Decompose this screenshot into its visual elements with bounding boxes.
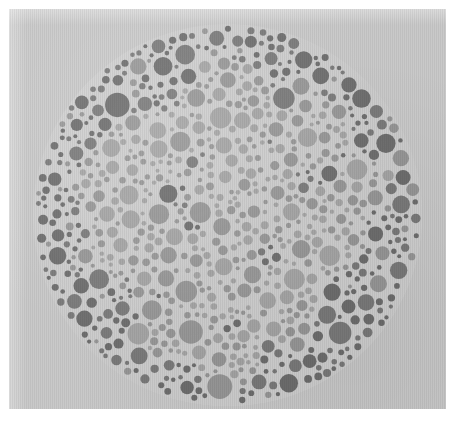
figure-dot [272,234,277,239]
figure-dot [214,71,218,75]
background-dot [223,45,227,49]
figure-dot [313,92,318,97]
background-dot [91,264,95,268]
background-dot [298,183,309,194]
figure-dot [229,333,236,340]
background-dot [341,70,345,74]
background-dot [268,44,275,51]
figure-dot [107,254,114,261]
figure-dot [153,348,163,358]
figure-dot [170,132,190,152]
figure-dot [207,293,216,302]
figure-dot [143,114,148,119]
background-dot [67,259,71,263]
background-dot [157,82,163,88]
background-dot [254,52,260,58]
figure-dot [240,378,247,385]
background-dot [124,277,129,282]
figure-dot [200,231,206,237]
background-dot [388,294,395,301]
figure-dot [196,280,202,286]
background-dot [362,149,366,153]
background-dot [84,121,88,125]
figure-dot [228,200,233,205]
figure-dot [330,209,334,213]
figure-dot [192,121,205,134]
figure-dot [287,239,292,244]
background-dot [159,185,177,203]
background-dot [76,311,92,327]
figure-dot [269,147,275,153]
background-dot [89,269,109,289]
figure-dot [269,122,284,137]
background-dot [343,94,349,100]
figure-dot [156,169,160,173]
figure-dot [111,197,119,205]
scan-margin-left [0,0,9,426]
figure-dot [360,244,365,249]
figure-dot [335,143,341,149]
figure-dot [194,185,204,195]
figure-dot [139,180,144,185]
background-dot [66,223,74,231]
background-dot [159,94,165,100]
figure-dot [319,216,326,223]
background-dot [69,146,83,160]
background-dot [79,267,83,271]
figure-dot [234,230,240,236]
background-dot [364,121,368,125]
figure-dot [218,58,230,70]
figure-dot [344,208,349,213]
figure-dot [286,132,292,138]
figure-dot [189,148,194,153]
background-dot [376,298,383,305]
figure-dot [150,337,158,345]
figure-dot [373,172,378,177]
figure-dot [201,247,205,251]
background-dot [358,294,375,311]
background-dot [289,359,302,372]
background-dot [233,320,241,328]
figure-dot [229,126,236,133]
background-dot [342,300,356,314]
figure-dot [283,203,300,220]
figure-dot [99,170,106,177]
figure-dot [208,77,213,82]
figure-dot [347,159,368,180]
figure-dot [233,257,240,264]
figure-dot [243,106,248,111]
figure-dot [246,155,253,162]
background-dot [290,337,305,352]
figure-dot [368,190,383,205]
figure-dot [312,249,317,254]
figure-dot [150,140,168,157]
figure-dot [93,190,105,202]
figure-dot [247,314,252,319]
background-dot [384,315,388,319]
figure-dot [253,87,258,92]
background-dot [194,376,201,383]
figure-dot [236,89,243,96]
background-dot [189,33,195,39]
figure-dot [96,162,101,167]
figure-dot [144,243,153,252]
figure-dot [260,140,265,145]
figure-dot [254,286,261,293]
background-dot [119,328,125,334]
background-dot [46,242,51,247]
figure-dot [369,179,377,187]
figure-dot [156,174,163,181]
background-dot [92,104,104,116]
figure-dot [160,247,176,263]
background-dot [182,202,188,208]
background-dot [98,118,111,131]
background-dot [338,349,344,355]
figure-dot [197,139,205,147]
background-dot [133,287,144,298]
background-dot [331,359,337,365]
background-dot [105,343,112,350]
background-dot [149,53,153,57]
background-dot [386,183,397,194]
background-dot [401,243,409,251]
figure-dot [168,170,172,174]
